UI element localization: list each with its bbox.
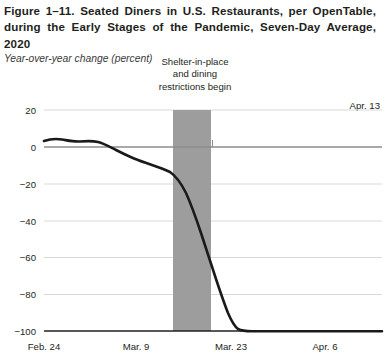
xtick-label-mar-9: Mar. 9 bbox=[123, 341, 150, 352]
xtick-label-apr-6: Apr. 6 bbox=[312, 341, 337, 352]
chart-svg bbox=[0, 0, 385, 363]
ytick-label-m40: −40 bbox=[0, 216, 36, 227]
ytick-label-0: 0 bbox=[0, 142, 36, 153]
ytick-label-m80: −80 bbox=[0, 289, 36, 300]
ytick-label-m60: −60 bbox=[0, 252, 36, 263]
xtick-label-mar-23: Mar. 23 bbox=[215, 341, 247, 352]
plot-area: 20 0 −20 −40 −60 −80 −100 Feb. 24 Mar. 9… bbox=[0, 0, 385, 363]
xtick-label-feb-24: Feb. 24 bbox=[28, 341, 61, 352]
shelter-in-place-band bbox=[173, 110, 211, 331]
ytick-label-m20: −20 bbox=[0, 179, 36, 190]
series-line-seated-diners bbox=[44, 139, 382, 331]
ytick-label-20: 20 bbox=[0, 105, 36, 116]
figure-container: Figure 1–11. Seated Diners in U.S. Resta… bbox=[0, 0, 385, 363]
ytick-label-m100: −100 bbox=[0, 326, 36, 337]
